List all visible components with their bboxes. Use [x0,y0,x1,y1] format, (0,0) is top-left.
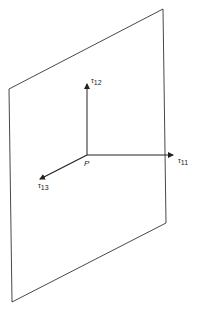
tau-13-arrow [40,155,87,179]
diagram-canvas: τ12 τ11 τ13 P [0,0,202,312]
tau-12-label: τ12 [91,77,102,85]
point-p-label: P [84,160,89,168]
tau-11-label: τ11 [178,157,188,165]
diagram-svg [0,0,202,312]
tau-13-label: τ13 [38,182,49,190]
